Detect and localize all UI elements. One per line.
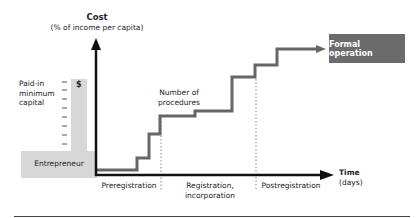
y-axis-subtitle: (% of income per capita) xyxy=(50,23,144,32)
phase-2-line-2: incorporation xyxy=(172,191,248,201)
capital-label-line-1: Paid-in xyxy=(19,79,63,89)
y-axis-title: Cost xyxy=(60,12,134,22)
x-axis-subtitle: (days) xyxy=(339,178,363,188)
phase-label-registration: Registration, incorporation xyxy=(172,181,248,200)
formal-operation-box: Formal operation xyxy=(329,34,405,63)
phase-3-line-1: Postregistration xyxy=(260,181,322,191)
phase-label-postregistration: Postregistration xyxy=(260,181,322,191)
capital-bar xyxy=(71,79,87,152)
phase-label-preregistration: Preregistration xyxy=(99,181,159,191)
capital-label-line-3: capital xyxy=(19,98,63,108)
dollar-icon: $ xyxy=(76,80,82,89)
curve-label-line-2: procedures xyxy=(146,98,212,108)
number-of-procedures-label: Number of procedures xyxy=(146,88,212,107)
y-axis-arrowhead-icon xyxy=(91,38,101,50)
curve-label-line-1: Number of xyxy=(146,88,212,98)
procedures-staircase-line xyxy=(97,49,318,170)
x-axis-title: Time xyxy=(339,168,360,178)
x-axis-arrowhead-icon xyxy=(320,170,334,180)
paid-in-capital-label: Paid-in minimum capital xyxy=(19,79,63,108)
phase-2-line-1: Registration, xyxy=(172,181,248,191)
entrepreneur-label: Entrepreneur xyxy=(21,159,97,169)
staircase-arrowhead-icon xyxy=(316,45,326,53)
phase-1-line-1: Preregistration xyxy=(99,181,159,191)
capital-label-line-2: minimum xyxy=(19,89,63,99)
